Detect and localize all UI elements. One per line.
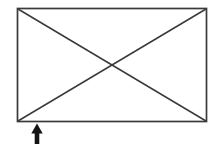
up-arrow-icon [31, 124, 42, 145]
diagram-stage [0, 0, 220, 144]
diagram-canvas [0, 0, 220, 144]
